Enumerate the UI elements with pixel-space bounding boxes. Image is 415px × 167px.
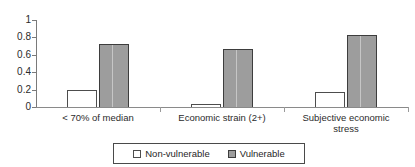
y-axis-tick-mark [32, 107, 36, 108]
y-axis-tick-label: 1 [25, 15, 31, 25]
chart-legend: Non-vulnerableVulnerable [113, 143, 305, 164]
x-axis-label: Subjective economic stress [272, 112, 415, 134]
plot-area: 00.20.40.60.81 [36, 20, 408, 108]
bar-group [160, 20, 284, 107]
legend-label: Non-vulnerable [145, 149, 209, 159]
bar-group [284, 20, 408, 107]
legend-item[interactable]: Non-vulnerable [133, 149, 209, 159]
x-axis-line [36, 107, 408, 108]
legend-item[interactable]: Vulnerable [228, 149, 285, 159]
bar-chart: 00.20.40.60.81 < 70% of medianEconomic s… [0, 0, 415, 167]
y-axis-tick-label: 0 [25, 102, 31, 112]
legend-label: Vulnerable [240, 149, 285, 159]
bar-nonvulnerable [67, 90, 97, 107]
y-axis-tick-label: 0.8 [17, 32, 31, 42]
bar-vulnerable [347, 35, 377, 107]
y-axis-tick-label: 0.6 [17, 50, 31, 60]
y-axis-tick-label: 0.2 [17, 85, 31, 95]
bar-vulnerable [223, 49, 253, 107]
bar-nonvulnerable [191, 104, 221, 107]
bar-group [36, 20, 160, 107]
y-axis-tick-label: 0.4 [17, 67, 31, 77]
bar-nonvulnerable [315, 92, 345, 107]
legend-swatch-icon [228, 150, 236, 158]
bar-vulnerable [99, 44, 129, 107]
legend-swatch-icon [133, 150, 141, 158]
